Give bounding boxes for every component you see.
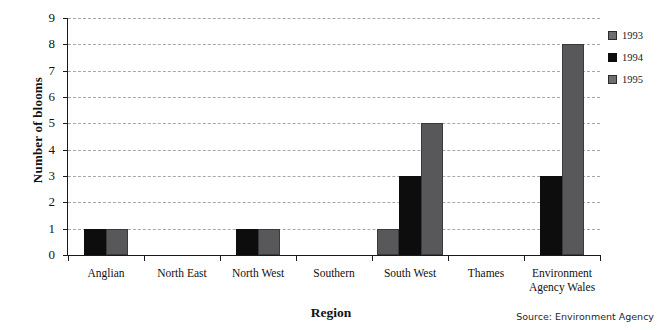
gridline bbox=[68, 229, 600, 230]
y-tick: 7 bbox=[63, 71, 68, 72]
gridline bbox=[68, 97, 600, 98]
x-axis-line bbox=[67, 255, 600, 256]
x-tick bbox=[600, 255, 601, 261]
y-tick: 1 bbox=[63, 229, 68, 230]
x-tick bbox=[68, 255, 69, 261]
bar bbox=[236, 229, 258, 255]
source-note: Source: Environment Agency bbox=[516, 311, 654, 322]
y-tick: 3 bbox=[63, 176, 68, 177]
y-tick-label: 2 bbox=[49, 194, 56, 210]
gridline bbox=[68, 150, 600, 151]
y-tick: 6 bbox=[63, 97, 68, 98]
y-axis-title: Number of blooms bbox=[30, 30, 46, 230]
gridline bbox=[68, 202, 600, 203]
y-axis-line bbox=[67, 18, 68, 255]
y-tick-label: 6 bbox=[49, 89, 56, 105]
bar bbox=[399, 176, 421, 255]
bar bbox=[562, 44, 584, 255]
y-tick: 2 bbox=[63, 202, 68, 203]
y-tick: 5 bbox=[63, 123, 68, 124]
x-tick bbox=[220, 255, 221, 261]
x-category-label: Anglian bbox=[62, 266, 150, 280]
gridline bbox=[68, 18, 600, 19]
y-tick-label: 8 bbox=[49, 36, 56, 52]
bar bbox=[377, 229, 399, 255]
gridline bbox=[68, 176, 600, 177]
bar bbox=[84, 229, 106, 255]
legend-swatch bbox=[608, 31, 617, 40]
x-category-label: Southern bbox=[290, 266, 378, 280]
y-tick-label: 9 bbox=[49, 10, 56, 26]
y-tick-label: 0 bbox=[49, 247, 56, 263]
legend-item[interactable]: 1994 bbox=[608, 48, 662, 66]
x-tick bbox=[372, 255, 373, 261]
y-tick-label: 7 bbox=[49, 63, 56, 79]
legend-label: 1995 bbox=[622, 74, 643, 85]
y-tick-label: 5 bbox=[49, 115, 56, 131]
x-tick bbox=[524, 255, 525, 261]
gridline bbox=[68, 71, 600, 72]
legend: 199319941995 bbox=[608, 26, 662, 92]
x-category-label: North West bbox=[214, 266, 302, 280]
legend-item[interactable]: 1995 bbox=[608, 70, 662, 88]
bar bbox=[258, 229, 280, 255]
x-category-label: South West bbox=[366, 266, 454, 280]
y-tick-label: 3 bbox=[49, 168, 56, 184]
x-tick bbox=[144, 255, 145, 261]
x-category-label: North East bbox=[138, 266, 226, 280]
gridline bbox=[68, 44, 600, 45]
y-tick: 8 bbox=[63, 44, 68, 45]
bar bbox=[421, 123, 443, 255]
y-tick-label: 4 bbox=[49, 142, 56, 158]
x-category-label: Thames bbox=[442, 266, 530, 280]
y-tick: 9 bbox=[63, 18, 68, 19]
plot-area: 0123456789 bbox=[68, 18, 600, 255]
bar bbox=[540, 176, 562, 255]
legend-label: 1993 bbox=[622, 30, 643, 41]
legend-swatch bbox=[608, 53, 617, 62]
x-tick bbox=[296, 255, 297, 261]
legend-label: 1994 bbox=[622, 52, 643, 63]
x-tick bbox=[448, 255, 449, 261]
legend-item[interactable]: 1993 bbox=[608, 26, 662, 44]
y-tick-label: 1 bbox=[49, 221, 56, 237]
y-tick: 4 bbox=[63, 150, 68, 151]
legend-swatch bbox=[608, 75, 617, 84]
x-category-label: Environment Agency Wales bbox=[518, 266, 606, 294]
gridline bbox=[68, 123, 600, 124]
bar bbox=[106, 229, 128, 255]
